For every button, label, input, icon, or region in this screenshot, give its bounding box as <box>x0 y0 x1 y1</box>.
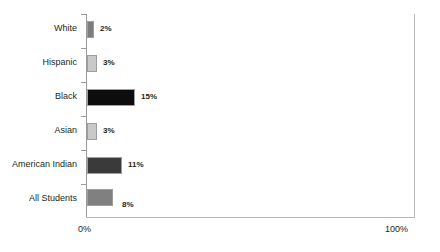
table-row: Black 15% <box>86 82 415 116</box>
bar-value-hispanic: 3% <box>103 57 115 68</box>
bar-all-students[interactable] <box>87 189 113 206</box>
y-axis-tick <box>81 48 86 49</box>
category-label-hispanic: Hispanic <box>42 57 77 68</box>
y-axis-tick <box>81 150 86 151</box>
category-label-american-indian: American Indian <box>12 159 77 170</box>
y-axis-tick <box>81 82 86 83</box>
table-row: White 2% <box>86 14 415 48</box>
table-row: Asian 3% <box>86 116 415 150</box>
y-axis-tick <box>81 184 86 185</box>
bar-value-asian: 3% <box>103 125 115 136</box>
bar-value-american-indian: 11% <box>128 159 144 170</box>
chart-screenshot: White 2% Hispanic 3% Black 15% Asian 3% <box>0 0 440 252</box>
category-label-all-students: All Students <box>29 193 77 204</box>
category-label-black: Black <box>55 91 77 102</box>
y-axis-tick <box>81 14 86 15</box>
table-row: All Students 8% <box>86 184 415 218</box>
bar-hispanic[interactable] <box>87 55 97 72</box>
bar-value-black: 15% <box>141 91 157 102</box>
bar-value-white: 2% <box>100 23 112 34</box>
table-row: Hispanic 3% <box>86 48 415 82</box>
bar-value-all-students: 8% <box>122 199 134 210</box>
plot-area: White 2% Hispanic 3% Black 15% Asian 3% <box>86 14 415 218</box>
category-label-white: White <box>54 23 77 34</box>
bar-black[interactable] <box>87 89 135 106</box>
bar-american-indian[interactable] <box>87 157 122 174</box>
y-axis-tick <box>81 116 86 117</box>
bar-white[interactable] <box>87 21 94 38</box>
bar-asian[interactable] <box>87 123 97 140</box>
table-row: American Indian 11% <box>86 150 415 184</box>
x-axis-tick-label-max: 100% <box>385 224 408 234</box>
x-axis-tick-label-min: 0% <box>78 224 91 234</box>
category-label-asian: Asian <box>54 125 77 136</box>
